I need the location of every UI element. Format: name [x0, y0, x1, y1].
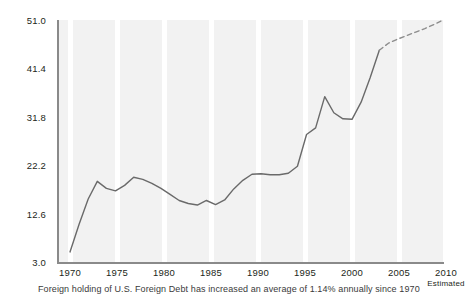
x-tick-text: 1975	[106, 267, 128, 278]
x-tick-label-estimated: 2010 Estimated	[427, 267, 464, 288]
x-tick-text: 1985	[200, 267, 222, 278]
x-tick-text: 2000	[341, 267, 363, 278]
x-tick-label: 1985	[200, 267, 222, 278]
x-tick-text: 2005	[388, 267, 410, 278]
estimated-annotation: Estimated	[427, 279, 464, 288]
x-tick-text: 1970	[59, 267, 81, 278]
x-tick-text: 1995	[294, 267, 316, 278]
x-tick-label: 1975	[106, 267, 128, 278]
x-tick-label: 1995	[294, 267, 316, 278]
x-tick-text: 2010	[435, 267, 457, 278]
x-tick-label: 2000	[341, 267, 363, 278]
x-tick-label: 1990	[247, 267, 269, 278]
x-tick-label: 1970	[59, 267, 81, 278]
x-tick-label: 1980	[153, 267, 175, 278]
x-tick-label: 2005	[388, 267, 410, 278]
chart-caption: Foreign holding of U.S. Foreign Debt has…	[38, 284, 420, 294]
series-line-actual	[70, 50, 379, 252]
series-line-estimated	[379, 20, 443, 50]
x-tick-text: 1980	[153, 267, 175, 278]
x-tick-text: 1990	[247, 267, 269, 278]
